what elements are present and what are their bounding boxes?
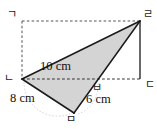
vertex-label-bottom-left: ㄴ <box>4 73 14 84</box>
geometry-figure: ㄱ ㄹ ㄴ ㄷ ㅂ ㅁ 10 cm 8 cm 6 cm <box>0 0 157 129</box>
vertex-dot-ra <box>139 20 141 22</box>
vertex-label-top-right: ㄹ <box>143 9 153 20</box>
figure-canvas <box>0 0 157 129</box>
vertex-label-bottom-right: ㄷ <box>145 79 155 90</box>
measure-label-six: 6 cm <box>86 93 111 106</box>
measure-label-eight: 8 cm <box>10 92 35 105</box>
measure-label-ten: 10 cm <box>40 60 71 73</box>
vertex-label-apex-below: ㅁ <box>66 114 76 125</box>
vertex-label-top-left: ㄱ <box>7 9 17 20</box>
vertex-dot-na <box>21 78 23 80</box>
